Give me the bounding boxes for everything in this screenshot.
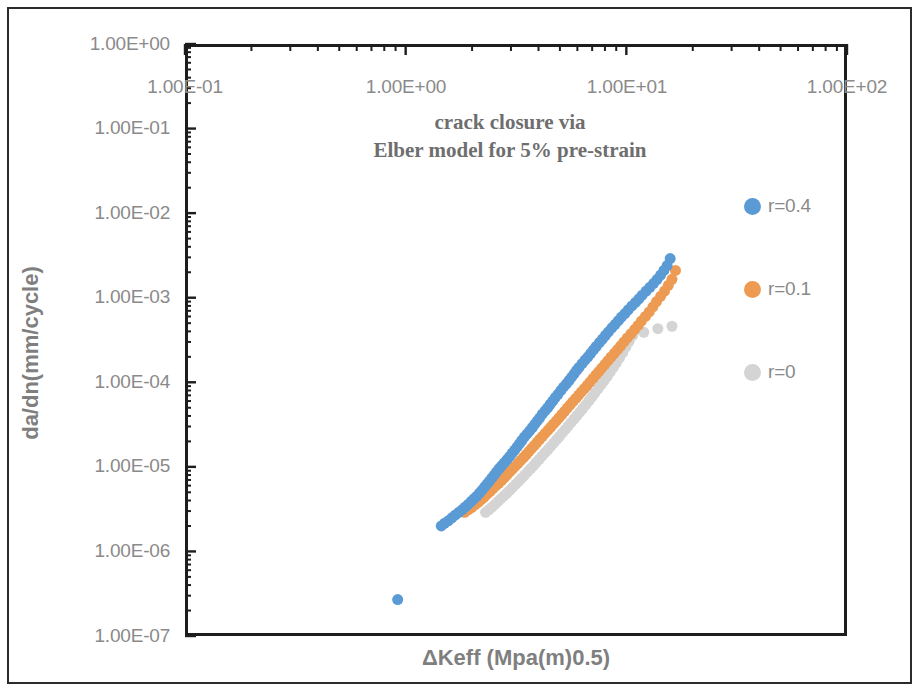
legend-swatch-icon	[744, 198, 761, 215]
x-tick-label: 1.00E+00	[366, 76, 446, 98]
legend-swatch-icon	[744, 281, 761, 298]
legend-item-r0[interactable]: r=0	[744, 361, 795, 383]
y-tick-label: 1.00E-07	[30, 625, 170, 647]
x-tick-label: 1.00E+02	[807, 76, 887, 98]
x-tick-label: 1.00E+01	[587, 76, 667, 98]
series-r-0	[480, 321, 677, 518]
chart-canvas	[0, 0, 919, 691]
x-tick-label: 1.00E-01	[147, 76, 223, 98]
y-tick-label: 1.00E-04	[30, 371, 170, 393]
legend-label: r=0.4	[768, 195, 811, 217]
legend-label: r=0.1	[768, 278, 811, 300]
y-axis-title: da/dn(mm/cycle)	[18, 203, 44, 503]
legend-label: r=0	[768, 361, 795, 383]
chart-figure: 1.00E+00 1.00E-01 1.00E-02 1.00E-03 1.00…	[0, 0, 919, 691]
legend-item-r04[interactable]: r=0.4	[744, 195, 811, 217]
x-axis-title: ΔKeff (Mpa(m)0.5)	[185, 645, 847, 671]
chart-title: crack closure via Elber model for 5% pre…	[300, 108, 720, 164]
y-tick-label: 1.00E-06	[30, 540, 170, 562]
chart-title-line-1: crack closure via	[300, 108, 720, 136]
legend-swatch-icon	[744, 364, 761, 381]
y-tick-label: 1.00E-01	[30, 117, 170, 139]
legend-item-r01[interactable]: r=0.1	[744, 278, 811, 300]
y-tick-label: 1.00E-05	[30, 455, 170, 477]
series-r-0-4	[392, 253, 675, 605]
y-tick-label: 1.00E+00	[30, 33, 170, 55]
y-tick-label: 1.00E-03	[30, 286, 170, 308]
chart-title-line-2: Elber model for 5% pre-strain	[300, 136, 720, 164]
y-tick-label: 1.00E-02	[30, 202, 170, 224]
